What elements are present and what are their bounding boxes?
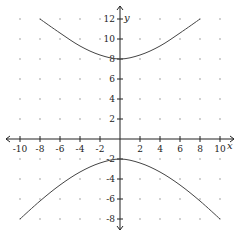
grid-dot [159,198,161,200]
x-tick-label: -4 [76,144,85,154]
grid-dot [99,178,101,180]
grid-dot [179,178,181,180]
grid-dot [219,158,221,160]
grid-dot [79,38,81,40]
grid-dot [219,98,221,100]
grid-dot [19,78,21,80]
grid-dot [19,18,21,20]
grid-dot [99,58,101,60]
grid-dot [179,98,181,100]
grid-dot [19,178,21,180]
grid-dot [199,58,201,60]
grid-dot [79,18,81,20]
x-tick-label: -6 [56,144,65,154]
grid-dot [199,218,201,220]
y-tick-label: 4 [109,94,115,104]
y-tick-label: 2 [109,114,115,124]
hyperbola-chart: -10-8-6-4-2246810-8-6-4-224681012 x y [0,0,240,235]
grid-dot [79,118,81,120]
grid-dot [39,98,41,100]
grid-dot [179,198,181,200]
grid-dot [219,18,221,20]
grid-dot [179,78,181,80]
grid-dot [19,98,21,100]
grid-dot [139,38,141,40]
grid-dot [139,98,141,100]
grid-dot [159,58,161,60]
grid-dot [219,78,221,80]
grid-dot [39,218,41,220]
grid-dot [219,178,221,180]
x-tick-label: 4 [157,144,163,154]
grid-dot [19,58,21,60]
grid-dot [219,58,221,60]
grid-dot [199,118,201,120]
grid-dot [199,38,201,40]
y-tick-label: -2 [106,154,115,164]
grid-dot [179,38,181,40]
y-tick-label: 12 [104,14,115,24]
y-axis-label: y [123,12,130,23]
grid-dot [139,118,141,120]
grid-dot [139,158,141,160]
grid-dot [99,98,101,100]
y-tick-label: 10 [104,34,116,44]
grid-dot [179,18,181,20]
y-tick-label: -8 [106,214,115,224]
grid-dot [159,38,161,40]
grid-dot [59,198,61,200]
grid-dot [99,218,101,220]
grid-dot [99,118,101,120]
grid-dot [79,218,81,220]
grid-dot [79,98,81,100]
grid-dot [159,218,161,220]
grid-dot [99,78,101,80]
grid-dot [39,38,41,40]
grid-dot [99,158,101,160]
grid-dot [59,38,61,40]
grid-dot [99,198,101,200]
grid-dot [19,198,21,200]
x-tick-label: -2 [96,144,105,154]
x-tick-label: 10 [214,144,226,154]
grid-dot [179,218,181,220]
grid-dot [139,18,141,20]
x-tick-label: -10 [13,144,28,154]
grid-dot [219,198,221,200]
grid-dot [59,78,61,80]
grid-dot [139,218,141,220]
grid-dot [39,78,41,80]
x-tick-label: -8 [36,144,45,154]
grid-dot [59,58,61,60]
x-tick-label: 8 [197,144,203,154]
grid-dot [99,38,101,40]
grid-dot [19,38,21,40]
grid-dot [19,118,21,120]
grid-dot [59,118,61,120]
grid-dot [39,198,41,200]
grid-dot [199,98,201,100]
grid-dot [39,58,41,60]
grid-dot [199,78,201,80]
grid-dot [179,158,181,160]
grid-dot [139,198,141,200]
grid-dot [79,158,81,160]
grid-dot [59,98,61,100]
x-tick-label: 2 [137,144,143,154]
grid-dot [159,158,161,160]
grid-dot [159,118,161,120]
grid-dot [219,38,221,40]
grid-dot [39,178,41,180]
grid-dot [59,218,61,220]
grid-dot [19,158,21,160]
grid-dot [219,118,221,120]
grid-dot [79,58,81,60]
grid-dot [199,158,201,160]
grid-dot [159,98,161,100]
y-tick-label: -6 [106,194,115,204]
x-axis-label: x [227,140,233,151]
grid-dot [199,178,201,180]
grid-dot [199,198,201,200]
y-tick-label: 6 [109,74,115,84]
grid-dot [39,118,41,120]
